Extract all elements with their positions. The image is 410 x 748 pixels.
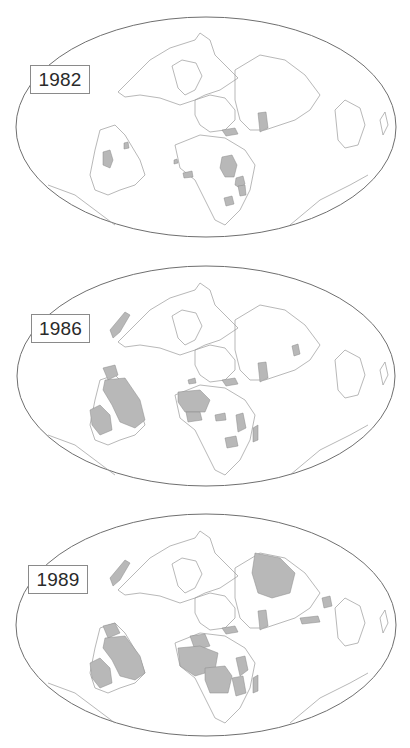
world-map-1986 (0, 250, 410, 500)
map-panel-1982: 1982 (0, 0, 410, 250)
year-label-1989: 1989 (28, 565, 88, 594)
year-label-1986: 1986 (31, 314, 90, 343)
world-map-1982 (0, 0, 410, 250)
map-panel-1989: 1989 (0, 498, 410, 748)
map-panel-1986: 1986 (0, 250, 410, 500)
world-map-1989 (0, 498, 410, 748)
year-label-1982: 1982 (30, 65, 90, 94)
